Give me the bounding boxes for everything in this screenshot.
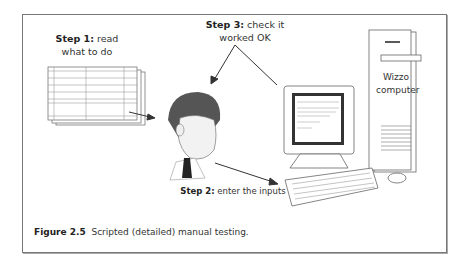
keyboard-icon: [285, 168, 378, 206]
tester-person-icon: [168, 92, 220, 180]
monitor-icon: [284, 86, 354, 168]
test-script-icon: [48, 67, 145, 125]
step1-label: Step 1: read what to do: [52, 32, 122, 58]
step3-label: Step 3: check it worked OK: [200, 18, 290, 44]
tower-computer-icon: [369, 30, 421, 172]
mouse-icon: [388, 173, 406, 183]
computer-label: Wizzocomputer: [376, 71, 416, 97]
figure-caption: Figure 2.5 Scripted (detailed) manual te…: [34, 227, 249, 237]
step2-label: Step 2: enter the inputs: [178, 185, 288, 198]
